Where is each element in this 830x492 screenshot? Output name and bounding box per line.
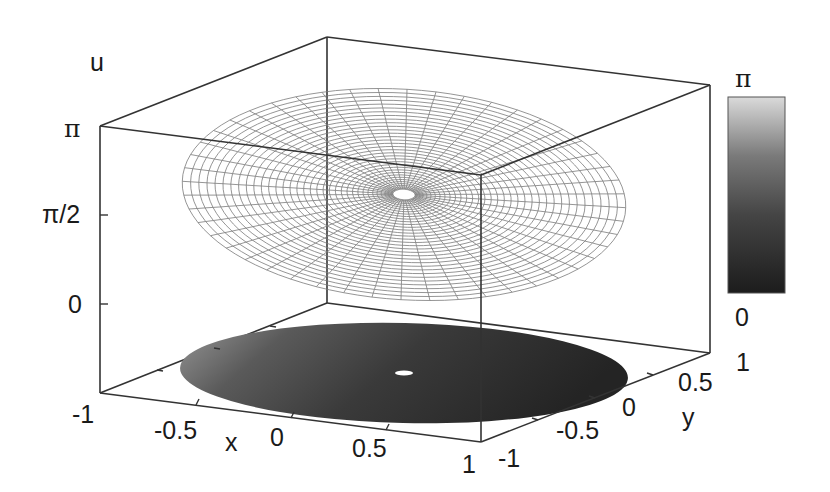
x-tick-m05: -0.5 — [154, 418, 197, 443]
center-hole — [395, 191, 413, 198]
x-tick-05: 0.5 — [352, 436, 387, 461]
x-tick-1: 1 — [462, 452, 476, 477]
wireframe-surface — [182, 89, 625, 301]
y-tick-m1: -1 — [498, 446, 520, 471]
x-tick-0: 0 — [270, 425, 284, 450]
colorbar-min-label: 0 — [735, 305, 749, 330]
x-axis-title: x — [225, 430, 238, 455]
y-tick-0: 0 — [622, 395, 636, 420]
y-tick-05: 0.5 — [678, 370, 713, 395]
z-tick-zero: 0 — [68, 292, 82, 317]
z-axis-title: u — [90, 50, 104, 75]
x-tick-m1: -1 — [72, 402, 94, 427]
colorbar-max-label: π — [735, 66, 751, 91]
y-axis-title: y — [682, 405, 695, 430]
center-hole-projection — [395, 370, 413, 375]
z-tick-half-pi: π/2 — [42, 202, 80, 227]
z-tick-pi: π — [64, 116, 80, 141]
colorbar — [728, 97, 785, 293]
surface-plot — [0, 0, 830, 492]
y-tick-1: 1 — [736, 350, 750, 375]
y-tick-m05: -0.5 — [556, 418, 599, 443]
